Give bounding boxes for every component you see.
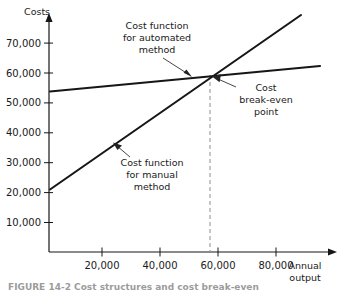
y-axis-tick-labels: 10,000 20,000 30,000 40,000 50,000 60,00… xyxy=(6,38,41,228)
x-axis-title-line2: output xyxy=(289,272,321,283)
annotation-automated-method: Cost function for automated method xyxy=(123,20,192,77)
automated-annotation-line3: method xyxy=(139,44,176,55)
y-tick-label-20000: 20,000 xyxy=(6,187,41,198)
annotation-manual-method: Cost function for manual method xyxy=(113,143,183,193)
x-tick-label-60000: 60,000 xyxy=(201,260,236,271)
x-axis-arrowhead xyxy=(328,248,337,255)
y-tick-label-30000: 30,000 xyxy=(6,157,41,168)
x-tick-label-40000: 40,000 xyxy=(143,260,178,271)
breakeven-leader-line xyxy=(218,79,236,87)
automated-leader-line xyxy=(163,58,188,74)
x-axis-tick-labels: 20,000 40,000 60,000 80,000 xyxy=(85,260,294,271)
figure-caption: FIGURE 14-2 Cost structures and cost bre… xyxy=(8,283,259,292)
axes-group xyxy=(45,13,337,256)
y-axis-title: Costs xyxy=(24,6,50,17)
y-tick-label-40000: 40,000 xyxy=(6,127,41,138)
breakeven-annotation-line3: point xyxy=(254,106,279,117)
breakeven-annotation-line1: Cost xyxy=(255,82,276,93)
x-axis-title-line1: Annual xyxy=(288,260,321,271)
cost-breakeven-chart: 10,000 20,000 30,000 40,000 50,000 60,00… xyxy=(0,0,347,292)
manual-annotation-line2: for manual xyxy=(126,169,178,180)
manual-annotation-line1: Cost function xyxy=(121,157,184,168)
manual-annotation-line3: method xyxy=(134,181,171,192)
y-tick-label-50000: 50,000 xyxy=(6,97,41,108)
figure-caption-clip: FIGURE 14-2 Cost structures and cost bre… xyxy=(0,283,347,292)
annotation-breakeven-point: Cost break-even point xyxy=(212,74,293,117)
breakeven-annotation-line2: break-even xyxy=(239,94,293,105)
figure-root: 10,000 20,000 30,000 40,000 50,000 60,00… xyxy=(0,0,347,292)
automated-cost-line xyxy=(50,66,320,92)
x-tick-label-20000: 20,000 xyxy=(85,260,120,271)
y-tick-label-60000: 60,000 xyxy=(6,68,41,79)
y-tick-label-70000: 70,000 xyxy=(6,38,41,49)
y-tick-label-10000: 10,000 xyxy=(6,217,41,228)
automated-annotation-line1: Cost function xyxy=(126,20,189,31)
automated-annotation-line2: for automated xyxy=(123,32,191,43)
automated-leader-arrowhead xyxy=(184,69,192,77)
